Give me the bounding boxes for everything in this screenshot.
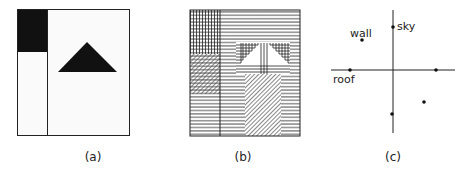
panel-b [190, 10, 300, 136]
caption-b: (b) [223, 150, 263, 164]
point-sky [391, 25, 395, 29]
panel-a [18, 10, 130, 136]
caption-a: (a) [73, 150, 113, 164]
point-right [434, 68, 438, 72]
point-roof [348, 68, 352, 72]
dark-region [18, 10, 48, 52]
label-sky: sky [397, 20, 415, 33]
label-wall: wall [350, 27, 372, 40]
caption-c: (c) [373, 150, 413, 164]
point-bottom [390, 112, 394, 116]
label-roof: roof [333, 73, 355, 86]
point-lower-right [422, 100, 426, 104]
